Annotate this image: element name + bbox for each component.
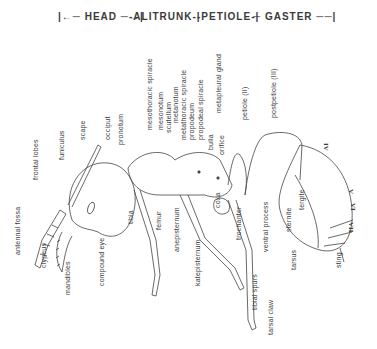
label-frontal-lobes: frontal lobes <box>32 139 39 180</box>
label-orifice: orifice <box>218 135 225 155</box>
label-occiput: occiput <box>104 116 111 140</box>
label-metanotum: metanotum <box>172 86 179 123</box>
label-metapleural-gland: metapleural gland <box>215 54 222 113</box>
label-petiole: petiole (II) <box>241 86 248 120</box>
postpetiole <box>245 132 302 195</box>
label-tarsal-claw: tarsal claw <box>267 300 274 335</box>
label-propodeal-spiracle: propodeal spiracle <box>197 79 204 140</box>
label-katepisternum: katepisternum <box>194 239 201 286</box>
alitrunk <box>128 152 232 197</box>
label-scutellum: scutellum <box>165 102 172 133</box>
foreleg <box>134 190 160 296</box>
label-propodeum: propodeum <box>188 103 195 140</box>
compound-eye <box>86 201 96 214</box>
label-segment-vi: VI <box>349 203 357 211</box>
label-ventral-process: ventral process <box>262 202 269 252</box>
label-mesonotum: mesonotum <box>157 92 164 130</box>
label-scape: scape <box>79 120 86 140</box>
label-femur: femur <box>155 211 162 230</box>
label-pronotum: pronotum <box>117 114 124 145</box>
label-tergite: tergite <box>298 189 305 210</box>
head-capsule <box>69 163 135 236</box>
label-compound-eye: compound eye <box>98 238 105 286</box>
label-metathoracic-spiracle: metathoracic spiracle <box>180 70 187 140</box>
label-funiculus: funiculus <box>58 131 65 160</box>
label-bulla: bulla <box>207 134 214 150</box>
label-anepisternum: anepisternum <box>173 207 180 252</box>
label-segment-v: V <box>347 189 355 194</box>
label-clypeus: clypeus <box>40 243 47 268</box>
label-segment-iv: IV <box>322 143 330 151</box>
label-antennal-fossa: antennal fossa <box>14 207 21 255</box>
label-trochanter: trochanter <box>235 206 242 240</box>
label-coxa: coxa <box>214 192 221 208</box>
ant-outline-drawing <box>0 0 377 349</box>
label-sting: sting <box>335 252 342 268</box>
label-mandibles: mandibles <box>64 261 71 295</box>
label-postpetiole: postpetiole (III) <box>270 68 277 118</box>
label-tibia: tibia <box>127 210 134 224</box>
label-tibial-spurs: tibial spurs <box>251 274 258 310</box>
label-sternite: sternite <box>285 207 292 232</box>
ant-anatomy-diagram: |←─ HEAD ─→| -ALITRUNK-| -PETIOLE-| ─ GA… <box>0 0 377 349</box>
label-segment-vii: VII <box>347 222 355 233</box>
antenna-scape <box>68 145 101 207</box>
label-mesothoracic-spiracle: mesothoracic spiracle <box>146 58 153 130</box>
label-tarsus: tarsus <box>290 250 297 270</box>
